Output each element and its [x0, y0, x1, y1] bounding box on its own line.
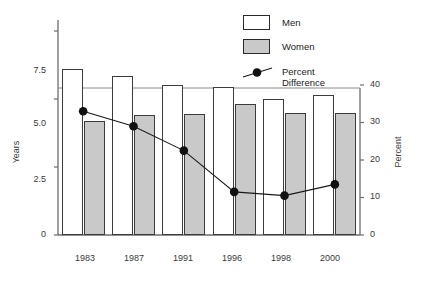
percent-difference-line: [83, 111, 335, 195]
percent-difference-point-1996: [230, 188, 239, 197]
percent-difference-point-1991: [180, 146, 189, 155]
percent-difference-point-1987: [129, 122, 138, 131]
percent-difference-line-layer: [0, 0, 422, 282]
percent-difference-point-2000: [331, 180, 340, 189]
chart-container: 7.5 5.0 2.5 0 Years 40 30 20 10 0 Percen…: [0, 0, 422, 282]
legend-marker-percent-difference: [243, 68, 272, 77]
percent-difference-point-1983: [79, 107, 88, 116]
percent-difference-point-1998: [280, 191, 289, 200]
